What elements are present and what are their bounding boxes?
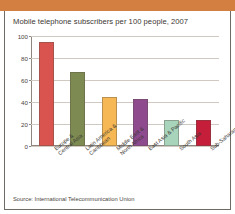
y-tick-label: 0 [25,143,28,150]
y-tick-label: 80 [21,55,28,62]
header-band [0,0,235,11]
chart-figure: Mobile telephone subscribers per 100 peo… [0,0,235,214]
x-axis-label: Latin America &Caribbean [84,147,92,157]
x-axis-label: Europe &Central Asia [53,147,61,157]
bar-series [31,36,219,146]
y-tick-label: 20 [21,121,28,128]
y-tick-label: 40 [21,99,28,106]
plot-area: 020406080100 [31,36,219,146]
chart-title: Mobile telephone subscribers per 100 peo… [13,17,188,26]
x-axis-labels: Europe &Central AsiaLatin America &Carib… [31,147,219,191]
bar-slot [62,36,93,146]
x-axis-label: South Asia [178,147,182,152]
bar-slot [188,36,219,146]
bar-slot [31,36,62,146]
y-tick-label: 100 [18,33,28,40]
source-note: Source: International Telecommunication … [13,196,134,202]
bar [39,42,54,147]
x-axis-label: Middle East &North Africa [115,147,123,157]
y-tick-label: 60 [21,77,28,84]
x-axis-label: Sub-Saharan Africa [209,147,213,152]
x-axis-label: East Asia & Pacific [147,147,151,152]
